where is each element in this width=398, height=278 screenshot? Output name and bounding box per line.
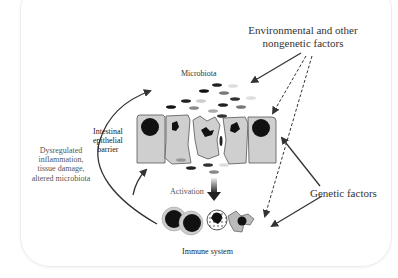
activation-label: Activation: [170, 187, 204, 196]
barrier-label-line2: epithelial: [93, 136, 123, 145]
environmental-label-line2: nongenetic factors: [228, 37, 378, 50]
barrier-label-line1: Intestinal: [93, 127, 123, 136]
microbiota-bacteria: [166, 83, 256, 118]
epithelial-barrier: [137, 115, 276, 164]
dysregulation-line3: tissue damage,: [20, 164, 102, 173]
activation-arrow: [211, 178, 217, 193]
dysregulation-label: Dysregulated inflammation, tissue damage…: [20, 146, 102, 183]
epithelial-cell: [165, 115, 191, 164]
environmental-label-line1: Environmental and other: [228, 24, 378, 37]
epithelial-cell: [193, 116, 220, 159]
translocated-bacteria: [176, 158, 229, 174]
microbiota-label: Microbiota: [181, 69, 217, 78]
immune-cells: [162, 207, 254, 235]
environmental-factors-label: Environmental and other nongenetic facto…: [228, 24, 378, 49]
dysregulation-line4: altered microbiota: [20, 174, 102, 183]
genetic-to-immune-arrow: [272, 196, 322, 226]
genetic-to-barrier-arrow: [282, 138, 320, 186]
feedback-arrow-to-barrier: [133, 170, 146, 195]
dysregulation-line1: Dysregulated: [20, 146, 102, 155]
environment-to-barrier-arrow: [273, 56, 306, 113]
environment-to-microbiota-arrow: [252, 53, 301, 82]
immune-system-label: Immune system: [182, 247, 233, 256]
dysregulation-line2: inflammation,: [20, 155, 102, 164]
genetic-factors-label: Genetic factors: [310, 187, 377, 200]
